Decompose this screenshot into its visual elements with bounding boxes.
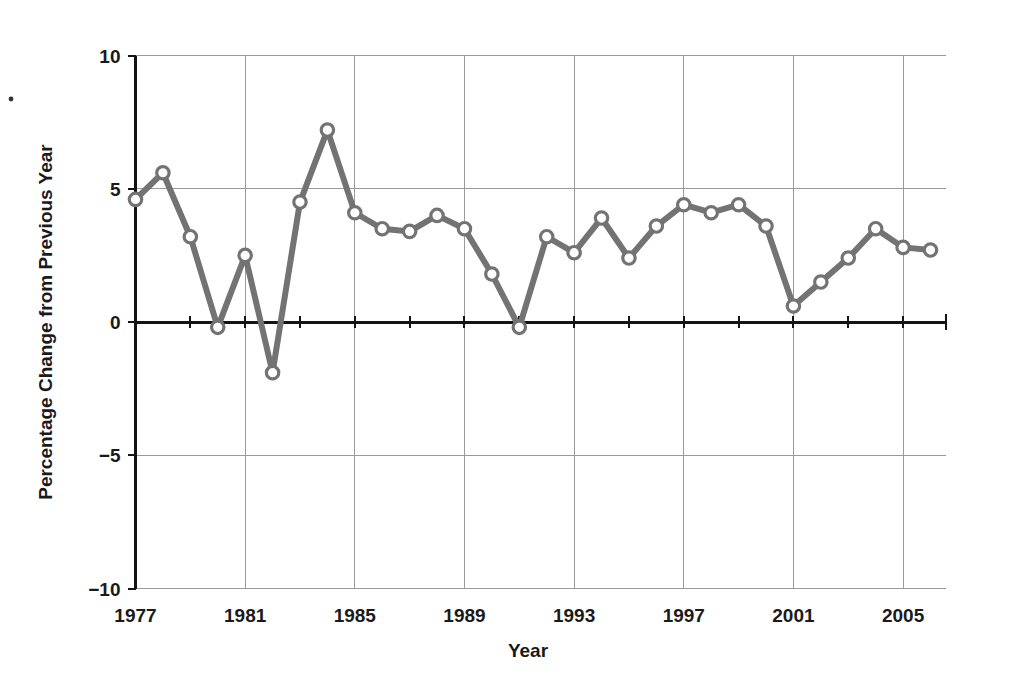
- data-point-marker: [650, 220, 662, 232]
- data-point-marker: [157, 167, 169, 179]
- data-point-marker: [732, 199, 744, 211]
- data-point-marker: [431, 209, 443, 221]
- data-point-marker: [595, 212, 607, 224]
- data-point-marker: [294, 196, 306, 208]
- x-tick-label: 1985: [334, 605, 377, 626]
- chart-background: [0, 0, 1030, 690]
- line-chart-figure: 19771981198519891993199720012005 1050−5−…: [0, 0, 1030, 690]
- data-point-marker: [376, 223, 388, 235]
- y-tick-label: 0: [110, 312, 121, 333]
- y-tick-label: 10: [99, 46, 120, 67]
- data-point-marker: [349, 207, 361, 219]
- chart-canvas: 19771981198519891993199720012005 1050−5−…: [0, 0, 1030, 690]
- data-point-marker: [842, 252, 854, 264]
- data-point-marker: [924, 244, 936, 256]
- data-point-marker: [212, 321, 224, 333]
- data-point-marker: [705, 207, 717, 219]
- x-axis-title: Year: [508, 640, 549, 661]
- x-tick-label: 1997: [663, 605, 705, 626]
- y-tick-label: 5: [110, 179, 121, 200]
- data-point-marker: [787, 300, 799, 312]
- data-point-marker: [897, 241, 909, 253]
- y-tick-label: −10: [88, 579, 120, 600]
- x-tick-label: 2001: [772, 605, 815, 626]
- y-tick-label: −5: [99, 445, 121, 466]
- x-tick-label: 1989: [443, 605, 485, 626]
- data-point-marker: [266, 366, 278, 378]
- y-axis-title: Percentage Change from Previous Year: [35, 144, 56, 500]
- x-tick-label: 1977: [114, 605, 156, 626]
- data-point-marker: [678, 199, 690, 211]
- data-point-marker: [568, 247, 580, 259]
- data-point-marker: [129, 193, 141, 205]
- data-point-marker: [869, 223, 881, 235]
- data-point-marker: [760, 220, 772, 232]
- data-point-marker: [513, 321, 525, 333]
- data-point-marker: [541, 231, 553, 243]
- x-tick-label: 1993: [553, 605, 595, 626]
- x-tick-label: 1981: [224, 605, 267, 626]
- data-point-marker: [458, 223, 470, 235]
- data-point-marker: [623, 252, 635, 264]
- x-tick-label: 2005: [882, 605, 925, 626]
- scan-speck: [9, 97, 14, 102]
- data-point-marker: [815, 276, 827, 288]
- data-point-marker: [321, 124, 333, 136]
- data-point-marker: [403, 225, 415, 237]
- data-point-marker: [486, 268, 498, 280]
- data-point-marker: [239, 249, 251, 261]
- data-point-marker: [184, 231, 196, 243]
